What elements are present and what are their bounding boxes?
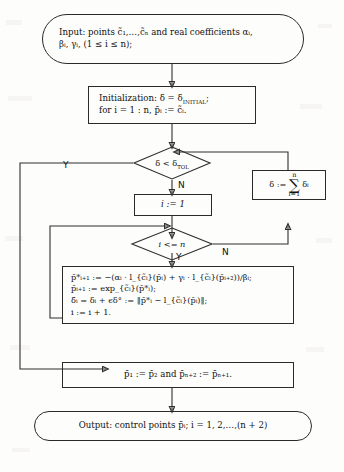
node-compute-line4: i := i + 1. [71,307,111,317]
sum-rhs: δᵢ [302,179,309,190]
scan-artifact [12,448,30,452]
node-compute-text: p̄*ᵢ₊₁ := −(αᵢ · l_{c̃ᵢ}(p̄ᵢ) + γᵢ · l_{… [63,272,293,319]
node-compute: p̄*ᵢ₊₁ := −(αᵢ · l_{c̃ᵢ}(p̄ᵢ) + γᵢ · l_{… [62,266,294,324]
node-compute-line3: δ̄ᵢ = δᵢ + ϵδ° := ‖p̄*ᵢ − l_{c̃ᵢ}(p̄ᵢ)‖; [71,295,207,305]
node-sum-delta: δ := n ∑ i=1 δᵢ [252,170,326,200]
diagram-canvas: Input: points c̃₁,…,c̃ₙ and real coeffic… [0,0,344,472]
node-init-text: Initialization: δ = δINITIAL; for i = 1 … [89,93,255,116]
decision-tolerance-label: δ < δTOL [133,146,211,180]
node-init-line1: Initialization: δ = δ [99,93,183,103]
node-init-line2: for i = 1 : n, p̄ᵢ := c̃ᵢ. [99,105,187,115]
label-loop-no: N [222,247,229,257]
node-endpoints-text: p̄₁ := p̄₂ and p̄ₙ₊₂ := p̄ₙ₊₁. [63,369,293,381]
label-loop-yes: Y [176,252,182,262]
node-output-text: Output: control points p̄ᵢ; i = 1, 2,…,(… [35,420,311,432]
label-tol-yes: Y [63,160,69,170]
scan-artifact [5,236,23,241]
summation-symbol: n ∑ i=1 [288,172,300,198]
node-input: Input: points c̃₁,…,c̃ₙ and real coeffic… [42,14,304,64]
scan-artifact [6,20,22,25]
node-sum-delta-text: δ := n ∑ i=1 δᵢ [269,172,308,198]
node-endpoints: p̄₁ := p̄₂ and p̄ₙ₊₂ := p̄ₙ₊₁. [62,362,294,388]
edge-loop-no [213,226,288,244]
node-input-text: Input: points c̃₁,…,c̃ₙ and real coeffic… [43,27,303,50]
decision-tolerance-text: δ < δ [155,158,177,168]
node-input-line2: βᵢ, γᵢ, (1 ≤ i ≤ n); [59,39,132,49]
node-initialization: Initialization: δ = δINITIAL; for i = 1 … [88,86,256,124]
node-init-line1-end: ; [206,93,209,103]
scan-artifact [300,104,322,109]
node-decision-tolerance: δ < δTOL [133,146,211,180]
sum-lower-limit: i=1 [288,191,300,198]
node-set-i-text: i := 1 [135,199,211,211]
scan-artifact [306,347,324,352]
scan-artifact [10,345,30,350]
node-compute-line2: p̄ᵢ₊₁ := exp_{c̃ᵢ}(p̄*ᵢ); [71,283,156,293]
sum-lhs: δ := [269,179,286,190]
scan-artifact [8,96,32,101]
node-input-line1: Input: points c̃₁,…,c̃ₙ and real coeffic… [59,27,253,37]
node-decision-loop: i <= n [131,227,213,261]
node-output: Output: control points p̄ᵢ; i = 1, 2,…,(… [34,411,312,441]
node-compute-line1: p̄*ᵢ₊₁ := −(αᵢ · l_{c̃ᵢ}(p̄ᵢ) + γᵢ · l_{… [71,272,252,282]
scan-artifact [316,238,332,243]
decision-tolerance-subscript: TOL [177,164,189,170]
decision-loop-label: i <= n [131,227,213,261]
node-set-i: i := 1 [134,194,212,216]
scan-artifact [318,24,332,28]
label-tol-no: N [178,180,185,190]
